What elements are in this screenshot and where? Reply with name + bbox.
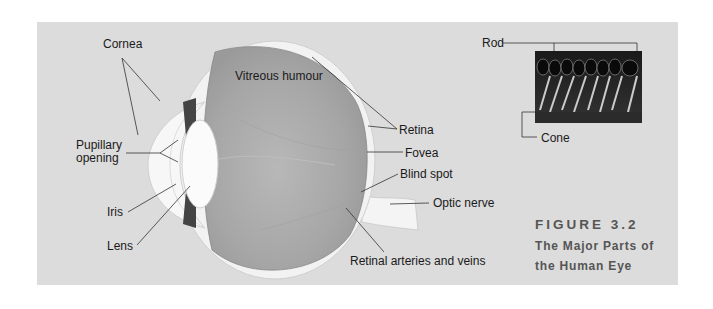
figure-title: The Major Parts of the Human Eye xyxy=(535,236,655,276)
figure-title-line1: The Major Parts of xyxy=(535,236,655,256)
label-retinal-arteries-and-veins: Retinal arteries and veins xyxy=(350,254,485,268)
label-cornea: Cornea xyxy=(103,37,142,51)
optic-nerve-shape xyxy=(362,195,418,230)
label-optic-nerve: Optic nerve xyxy=(433,196,494,210)
label-blind-spot: Blind spot xyxy=(400,167,453,181)
label-cone: Cone xyxy=(541,131,570,145)
lens-shape xyxy=(182,120,218,208)
label-pupillary-opening-line2: opening xyxy=(76,151,119,165)
label-lens: Lens xyxy=(107,239,133,253)
label-fovea: Fovea xyxy=(405,146,438,160)
figure-number: FIGURE 3.2 xyxy=(535,217,639,232)
label-retina: Retina xyxy=(399,123,434,137)
rods-cones-micrograph xyxy=(535,51,642,123)
label-vitreous-humour: Vitreous humour xyxy=(235,69,323,83)
label-rod: Rod xyxy=(482,36,504,50)
label-pupillary-opening-line1: Pupillary xyxy=(76,138,122,152)
figure-title-line2: the Human Eye xyxy=(535,256,655,276)
label-iris: Iris xyxy=(107,205,123,219)
